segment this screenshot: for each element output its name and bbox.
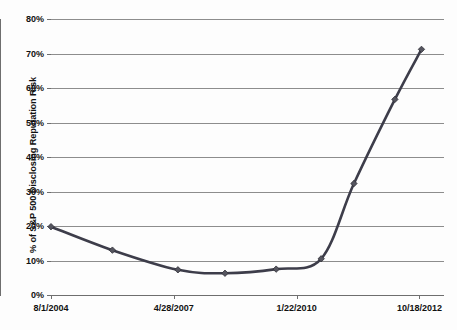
y-tick-label: 70%: [26, 49, 44, 59]
gridline: [51, 295, 444, 296]
series-line-path: [51, 49, 421, 273]
chart-figure: % of S&P 500 Disclosing Reputation Risk …: [0, 0, 457, 330]
data-point-marker: [222, 270, 228, 276]
x-tick-mark: [174, 295, 175, 299]
y-tick-label: 60%: [26, 83, 44, 93]
y-tick-label: 10%: [26, 256, 44, 266]
series-line-chart: [51, 19, 444, 295]
series-markers-group: [48, 46, 425, 276]
y-tick-label: 0%: [31, 290, 44, 300]
y-tick-label: 30%: [26, 187, 44, 197]
y-tick-label: 50%: [26, 118, 44, 128]
x-tick-mark: [51, 295, 52, 299]
y-axis-line: [0, 19, 1, 296]
x-tick-mark: [419, 295, 420, 299]
y-tick-label: 40%: [26, 152, 44, 162]
x-tick-label: 4/28/2007: [154, 303, 194, 313]
x-tick-label: 8/1/2004: [33, 303, 68, 313]
x-tick-label: 10/18/2012: [397, 303, 442, 313]
data-point-marker: [109, 247, 115, 253]
y-tick-label: 20%: [26, 221, 44, 231]
x-tick-label: 1/22/2010: [277, 303, 317, 313]
x-tick-mark: [297, 295, 298, 299]
data-point-marker: [273, 266, 279, 272]
data-point-marker: [175, 267, 181, 273]
y-tick-label: 80%: [26, 14, 44, 24]
plot-area: 0%10%20%30%40%50%60%70%80% 8/1/20044/28/…: [51, 19, 444, 295]
